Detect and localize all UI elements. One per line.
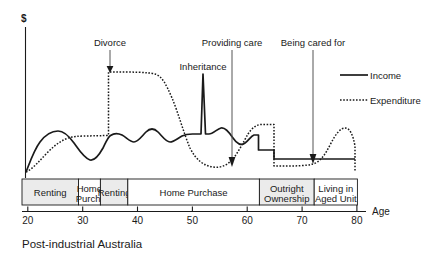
annotation-being-cared-for: Being cared for bbox=[281, 37, 345, 164]
x-tick-label-2: 40 bbox=[132, 215, 144, 226]
life-course-income-expenditure-chart: $ Age 20 30 40 50 60 70 80 Renting Home … bbox=[0, 0, 444, 253]
band-label-outright-ownership-line2: Ownership bbox=[264, 193, 309, 204]
legend: Income Expenditure bbox=[340, 70, 421, 106]
band-label-living-in-aged-unit-line2: Aged Unit bbox=[315, 193, 357, 204]
annotation-inheritance: Inheritance bbox=[179, 61, 226, 72]
annotation-providing-care: Providing care bbox=[202, 37, 263, 167]
figure-title: Post-industrial Australia bbox=[22, 238, 143, 250]
expenditure-curve bbox=[26, 72, 355, 172]
annotation-label-divorce: Divorce bbox=[94, 37, 126, 48]
band-label-home-purchase-2: Home Purchase bbox=[160, 187, 228, 198]
x-tick-label-4: 60 bbox=[242, 215, 254, 226]
annotation-label-being-cared-for: Being cared for bbox=[281, 37, 345, 48]
x-tick-label-5: 70 bbox=[297, 215, 309, 226]
chart-svg: $ Age 20 30 40 50 60 70 80 Renting Home … bbox=[0, 0, 444, 253]
annotation-arrowhead-divorce bbox=[107, 66, 114, 73]
x-tick-label-6: 80 bbox=[351, 215, 363, 226]
x-axis-label: Age bbox=[372, 206, 390, 217]
housing-band-row: Renting Home Purch. Renting Home Purchas… bbox=[22, 179, 357, 205]
x-tick-label-1: 30 bbox=[77, 215, 89, 226]
band-label-renting-1: Renting bbox=[34, 187, 67, 198]
band-label-renting-2: Renting bbox=[98, 187, 131, 198]
x-tick-label-0: 20 bbox=[22, 215, 34, 226]
income-curve bbox=[26, 74, 355, 172]
legend-label-expenditure: Expenditure bbox=[370, 95, 421, 106]
annotation-label-inheritance: Inheritance bbox=[179, 61, 226, 72]
y-axis-label: $ bbox=[21, 13, 27, 24]
x-tick-label-3: 50 bbox=[187, 215, 199, 226]
annotation-arrowhead-providing-care bbox=[229, 157, 236, 167]
annotation-label-providing-care: Providing care bbox=[202, 37, 263, 48]
legend-label-income: Income bbox=[370, 70, 401, 81]
annotation-divorce: Divorce bbox=[94, 37, 126, 73]
x-tick-labels: 20 30 40 50 60 70 80 bbox=[22, 215, 363, 226]
